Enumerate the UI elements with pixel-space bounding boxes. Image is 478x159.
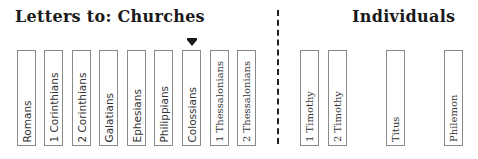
churches-heading: Letters to: Churches <box>15 7 205 26</box>
book-label: Philemon <box>449 95 459 142</box>
book-label: Philippians <box>158 85 169 142</box>
book-1-corinthians: 1 Corinthians <box>44 50 63 146</box>
book-romans: Romans <box>17 50 36 146</box>
book-galatians: Galatians <box>99 50 118 146</box>
individuals-heading: Individuals <box>352 7 455 26</box>
book-label: 2 Timothy <box>333 91 343 142</box>
book-2-corinthians: 2 Corinthians <box>72 50 91 146</box>
book-label: Titus <box>391 117 401 142</box>
book-2-thessalonians: 2 Thessalonians <box>237 50 256 146</box>
book-label: Romans <box>21 100 32 142</box>
book-philippians: Philippians <box>154 50 173 146</box>
book-titus: Titus <box>386 50 405 146</box>
book-label: 2 Thessalonians <box>242 61 252 142</box>
book-philemon: Philemon <box>444 50 463 146</box>
book-ephesians: Ephesians <box>127 50 146 146</box>
book-label: 1 Thessalonians <box>215 61 225 142</box>
book-1-timothy: 1 Timothy <box>300 50 319 146</box>
book-label: 1 Timothy <box>305 91 315 142</box>
down-arrow-marker-icon <box>187 40 197 46</box>
book-colossians: Colossians <box>182 50 201 146</box>
book-label: Ephesians <box>131 89 142 142</box>
section-divider <box>277 10 279 144</box>
book-1-thessalonians: 1 Thessalonians <box>210 50 229 146</box>
book-2-timothy: 2 Timothy <box>328 50 347 146</box>
book-label: 2 Corinthians <box>76 72 87 142</box>
book-label: 1 Corinthians <box>48 72 59 142</box>
book-label: Galatians <box>103 92 114 142</box>
book-label: Colossians <box>186 86 197 142</box>
